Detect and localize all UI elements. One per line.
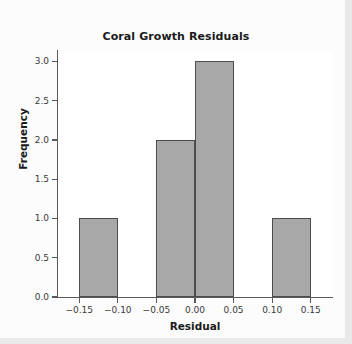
figure-bottom-margin <box>0 338 352 344</box>
x-tick-label: 0.10 <box>262 305 282 315</box>
x-tick-label: 0.15 <box>301 305 321 315</box>
histogram-figure: Coral Growth Residuals 0.00.51.01.52.02.… <box>0 0 352 344</box>
x-tick-label: −0.10 <box>104 305 132 315</box>
histogram-bar <box>79 218 118 297</box>
y-tick-mark <box>52 218 58 219</box>
y-tick-mark <box>52 296 58 297</box>
x-tick-mark <box>117 297 118 303</box>
x-tick-label: −0.15 <box>65 305 93 315</box>
y-axis-spine <box>57 50 58 298</box>
x-tick-mark <box>272 297 273 303</box>
y-tick-label: 2.5 <box>35 96 49 106</box>
y-tick-label: 0.5 <box>35 253 49 263</box>
y-tick-mark <box>52 179 58 180</box>
x-axis-label: Residual <box>58 320 332 332</box>
histogram-bar <box>156 140 195 297</box>
y-tick-label: 1.5 <box>35 174 49 184</box>
y-tick-mark <box>52 139 58 140</box>
x-tick-mark <box>233 297 234 303</box>
x-tick-mark <box>310 297 311 303</box>
histogram-bar <box>272 218 311 297</box>
y-tick-label: 2.0 <box>35 135 49 145</box>
figure-right-margin <box>345 0 352 344</box>
y-tick-mark <box>52 100 58 101</box>
y-tick-mark <box>52 257 58 258</box>
x-tick-mark <box>79 297 80 303</box>
x-tick-label: 0.05 <box>224 305 244 315</box>
y-tick-label: 0.0 <box>35 292 49 302</box>
y-tick-mark <box>52 61 58 62</box>
x-tick-label: 0.00 <box>185 305 205 315</box>
y-tick-label: 1.0 <box>35 213 49 223</box>
x-tick-mark <box>194 297 195 303</box>
chart-title: Coral Growth Residuals <box>0 30 352 43</box>
x-tick-mark <box>156 297 157 303</box>
y-axis-label: Frequency <box>17 79 29 199</box>
x-tick-label: −0.05 <box>143 305 171 315</box>
y-tick-label: 3.0 <box>35 56 49 66</box>
histogram-bar <box>195 61 234 297</box>
